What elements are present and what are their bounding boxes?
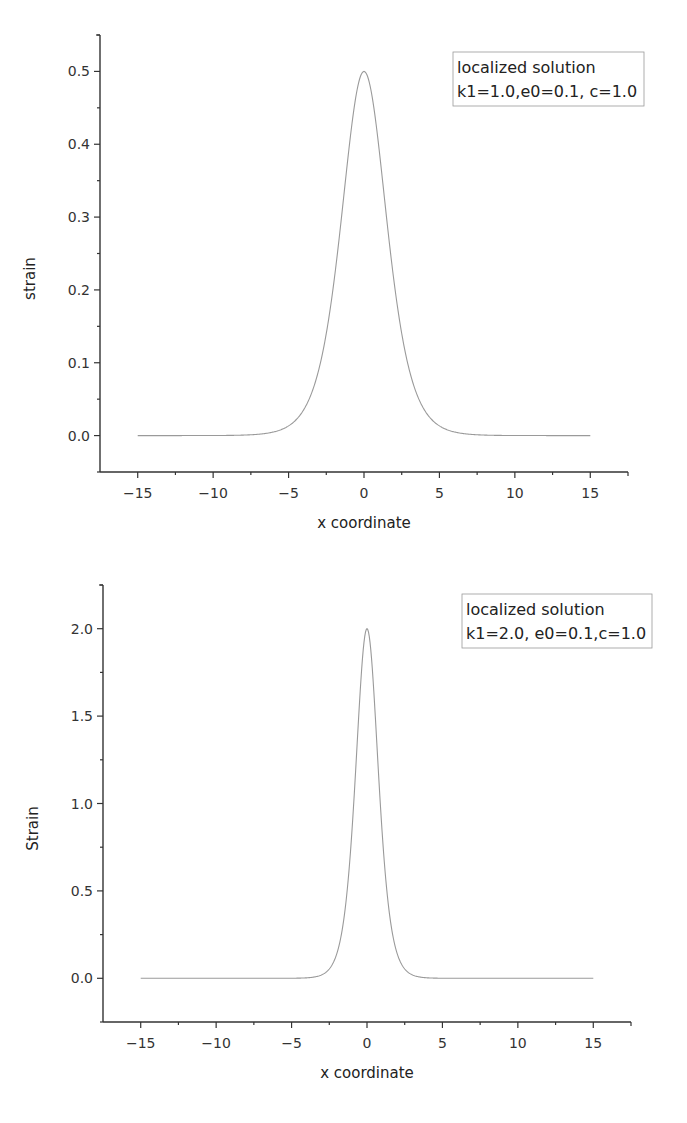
strain-curve xyxy=(138,71,591,435)
y-tick-label: 0.0 xyxy=(68,428,90,444)
legend: localized solution k1=1.0,e0=0.1, c=1.0 xyxy=(453,52,644,106)
y-axis-ticks: 0.00.51.01.52.0 xyxy=(71,585,103,1022)
x-tick-label: 5 xyxy=(438,1035,447,1051)
x-tick-label: 0 xyxy=(363,1035,372,1051)
legend-title: localized solution xyxy=(466,600,605,619)
x-tick-label: −15 xyxy=(123,485,153,501)
chart-strain-k1-1: 0.00.10.20.30.40.5 −15−10−5051015 strain… xyxy=(21,35,644,532)
y-axis-label: Strain xyxy=(24,806,42,850)
y-tick-label: 0.1 xyxy=(68,355,90,371)
x-axis-ticks: −15−10−5051015 xyxy=(126,1022,602,1051)
x-tick-label: 5 xyxy=(435,485,444,501)
y-axis-ticks: 0.00.10.20.30.40.5 xyxy=(68,35,100,472)
y-tick-label: 0.5 xyxy=(68,63,90,79)
x-tick-label: 15 xyxy=(581,485,599,501)
y-tick-label: 0.5 xyxy=(71,883,93,899)
figure: 0.00.10.20.30.40.5 −15−10−5051015 strain… xyxy=(0,0,687,1123)
y-tick-label: 1.0 xyxy=(71,796,93,812)
x-tick-label: 15 xyxy=(584,1035,602,1051)
legend-params: k1=2.0, e0=0.1,c=1.0 xyxy=(466,624,646,643)
x-tick-label: 10 xyxy=(509,1035,527,1051)
x-tick-label: −15 xyxy=(126,1035,156,1051)
y-tick-label: 0.4 xyxy=(68,136,90,152)
y-tick-label: 2.0 xyxy=(71,621,93,637)
y-tick-label: 0.3 xyxy=(68,209,90,225)
strain-curve xyxy=(141,629,594,979)
y-tick-label: 0.0 xyxy=(71,970,93,986)
chart-strain-k1-2: 0.00.51.01.52.0 −15−10−5051015 Strain x … xyxy=(24,585,652,1082)
x-tick-label: −10 xyxy=(201,1035,231,1051)
y-axis-label: strain xyxy=(21,257,39,300)
plot-area xyxy=(99,585,631,1026)
x-tick-label: −10 xyxy=(198,485,228,501)
y-tick-label: 1.5 xyxy=(71,708,93,724)
x-axis-ticks: −15−10−5051015 xyxy=(123,472,599,501)
x-tick-label: 0 xyxy=(360,485,369,501)
legend-title: localized solution xyxy=(457,58,596,77)
x-tick-label: −5 xyxy=(281,1035,302,1051)
x-tick-label: 10 xyxy=(506,485,524,501)
legend: localized solution k1=2.0, e0=0.1,c=1.0 xyxy=(462,594,652,648)
x-axis-label: x coordinate xyxy=(317,514,411,532)
legend-params: k1=1.0,e0=0.1, c=1.0 xyxy=(457,82,637,101)
x-tick-label: −5 xyxy=(278,485,299,501)
y-tick-label: 0.2 xyxy=(68,282,90,298)
x-axis-label: x coordinate xyxy=(320,1064,414,1082)
